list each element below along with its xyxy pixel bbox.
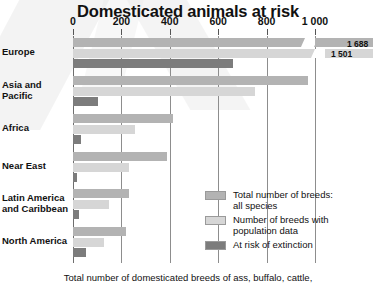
category-label-line1: Latin America	[2, 192, 70, 203]
legend-item[interactable]: Total number of breeds:all species	[205, 189, 373, 211]
legend-label-line1: Total number of breeds:	[233, 189, 333, 200]
bar-with-data	[73, 49, 315, 58]
x-tick-800	[267, 29, 268, 35]
x-tick-label: 200	[113, 15, 131, 27]
bar-total	[73, 114, 173, 123]
x-tick-label: 0	[70, 15, 76, 27]
bar-with-data	[73, 238, 104, 247]
x-tick-1000	[315, 29, 316, 35]
bar-with-data	[73, 125, 135, 134]
bar-with-data	[73, 87, 255, 96]
category-label-2: Asia andPacific	[2, 79, 70, 101]
legend-item[interactable]: Number of breeds withpopulation data	[205, 214, 373, 236]
legend-swatch-total	[205, 191, 226, 200]
x-tick-label: 800	[258, 15, 276, 27]
category-label-3: Africa	[2, 122, 70, 133]
x-tick-200	[121, 29, 122, 35]
legend-label-line1: Number of breeds with	[233, 214, 329, 225]
category-label-4: Near East	[2, 160, 70, 171]
legend-label: Total number of breeds:all species	[233, 189, 333, 211]
legend-label-line2: all species	[233, 200, 333, 211]
category-label-1: Europe	[2, 46, 70, 57]
bar-value-label: 1 501	[331, 49, 352, 59]
bar-at-risk	[73, 210, 79, 219]
chart-legend: Total number of breeds:all speciesNumber…	[205, 189, 373, 253]
bar-at-risk	[73, 135, 81, 144]
bar-group	[73, 114, 315, 144]
legend-swatch-with-data	[205, 216, 226, 225]
bar-with-data	[73, 200, 109, 209]
x-tick-600	[218, 29, 219, 35]
category-label-line2: Pacific	[2, 90, 70, 101]
legend-label-line2: population data	[233, 225, 329, 236]
chart-footnote: Total number of domesticated breeds of a…	[0, 272, 376, 283]
legend-item[interactable]: At risk of extinction	[205, 239, 373, 250]
bar-at-risk	[73, 248, 86, 257]
bar-value-label: 1 688	[347, 39, 368, 49]
x-tick-0	[73, 29, 74, 35]
bar-total	[73, 227, 126, 236]
x-tick-label: 600	[209, 15, 227, 27]
category-label-line1: Europe	[2, 46, 70, 57]
category-label-line1: North America	[2, 235, 70, 246]
x-tick-label: 400	[161, 15, 179, 27]
chart-container: Domesticated animals at risk 02004006008…	[0, 0, 376, 290]
bar-at-risk	[73, 59, 233, 68]
category-label-5: Latin Americaand Caribbean	[2, 192, 70, 214]
legend-label: Number of breeds withpopulation data	[233, 214, 329, 236]
category-label-line1: Africa	[2, 122, 70, 133]
bar-at-risk	[73, 173, 77, 182]
bar-group	[73, 76, 315, 106]
category-label-line1: Near East	[2, 160, 70, 171]
category-label-6: North America	[2, 235, 70, 246]
legend-label: At risk of extinction	[233, 239, 313, 250]
bar-total	[73, 152, 167, 161]
bar-with-data	[73, 163, 129, 172]
legend-label-line1: At risk of extinction	[233, 239, 313, 250]
bar-group	[73, 152, 315, 182]
category-label-line2: and Caribbean	[2, 203, 70, 214]
bar-total	[73, 76, 308, 85]
x-tick-label: 1 000	[302, 15, 328, 27]
bar-group: 1 6881 501	[73, 38, 315, 68]
category-label-line1: Asia and	[2, 79, 70, 90]
legend-swatch-at-risk	[205, 241, 226, 250]
bar-total	[73, 189, 129, 198]
bar-at-risk	[73, 97, 98, 106]
x-tick-400	[170, 29, 171, 35]
bar-total	[73, 38, 315, 47]
